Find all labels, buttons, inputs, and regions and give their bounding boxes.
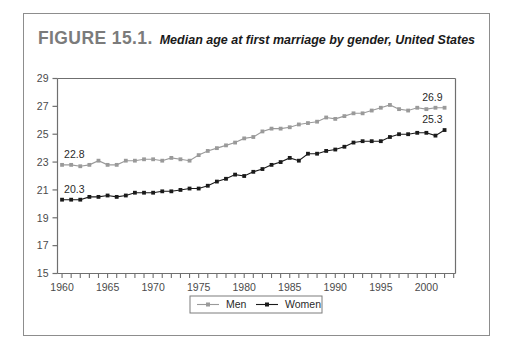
data-point [106,163,110,167]
data-point [87,163,91,167]
data-point [69,163,73,167]
data-point [443,128,447,132]
data-point [288,125,292,129]
data-label: 26.9 [422,91,443,103]
data-point [215,180,219,184]
data-point [97,195,101,199]
data-point [415,106,419,110]
data-point [397,132,401,136]
data-point [124,194,128,198]
data-point [224,143,228,147]
data-point [352,141,356,145]
y-tick-label: 17 [37,239,49,251]
data-point [324,149,328,153]
data-point [288,156,292,160]
data-point [115,195,119,199]
data-point [151,191,155,195]
data-point [333,148,337,152]
x-tick-label: 1975 [187,281,211,293]
legend-marker [265,303,269,307]
y-tick-label: 23 [37,156,49,168]
data-point [434,106,438,110]
data-point [424,107,428,111]
legend-label: Women [285,298,321,310]
data-point [251,170,255,174]
x-tick-label: 1990 [324,281,348,293]
data-point [361,111,365,115]
data-point [379,139,383,143]
x-tick-label: 1960 [50,281,74,293]
data-point [388,135,392,139]
data-point [306,121,310,125]
y-tick-label: 15 [37,267,49,279]
data-point [133,159,137,163]
x-tick-label: 1980 [233,281,257,293]
data-point [60,198,64,202]
data-point [315,120,319,124]
y-axis: 1517192123252729 [37,72,58,279]
data-point [87,195,91,199]
x-tick-label: 1985 [278,281,302,293]
data-point [115,163,119,167]
data-point [242,136,246,140]
data-point [78,164,82,168]
data-point [297,123,301,127]
x-tick-label: 1965 [96,281,120,293]
data-point [261,130,265,134]
data-point [206,184,210,188]
data-point [233,141,237,145]
data-point [297,159,301,163]
data-point [69,198,73,202]
data-point [333,117,337,121]
data-point [406,109,410,113]
data-point [60,163,64,167]
data-point [370,139,374,143]
data-label: 20.3 [64,183,85,195]
data-point [342,114,346,118]
data-point [324,116,328,120]
data-point [261,167,265,171]
chart-plot-area: 1517192123252729196019651970197519801985… [0,0,514,359]
data-point [352,111,356,115]
data-point [270,163,274,167]
data-point [443,106,447,110]
data-point [197,153,201,157]
data-point [406,132,410,136]
data-point [361,139,365,143]
y-tick-label: 21 [37,184,49,196]
data-point [251,135,255,139]
y-tick-label: 27 [37,100,49,112]
data-point [169,189,173,193]
data-point [188,187,192,191]
data-point [379,106,383,110]
data-point [370,109,374,113]
data-point [397,107,401,111]
data-point [124,159,128,163]
data-point [97,159,101,163]
data-point [242,174,246,178]
line-chart: 1517192123252729196019651970197519801985… [0,0,514,359]
data-point [179,157,183,161]
data-point [206,149,210,153]
data-point [188,159,192,163]
data-point [142,191,146,195]
x-tick-label: 2000 [415,281,439,293]
legend-label: Men [226,298,247,310]
data-point [215,146,219,150]
data-point [306,152,310,156]
data-point [179,188,183,192]
data-point [142,157,146,161]
data-point [233,173,237,177]
data-point [279,127,283,131]
data-point [106,194,110,198]
x-tick-label: 1995 [369,281,393,293]
data-label: 25.3 [422,113,443,125]
data-point [388,103,392,107]
y-tick-label: 29 [37,72,49,84]
figure-container: FIGURE 15.1.Median age at first marriage… [0,0,514,359]
data-point [270,127,274,131]
y-tick-label: 25 [37,128,49,140]
data-label: 22.8 [64,148,85,160]
data-point [342,145,346,149]
x-axis: 196019651970197519801985199019952000 [50,274,453,293]
